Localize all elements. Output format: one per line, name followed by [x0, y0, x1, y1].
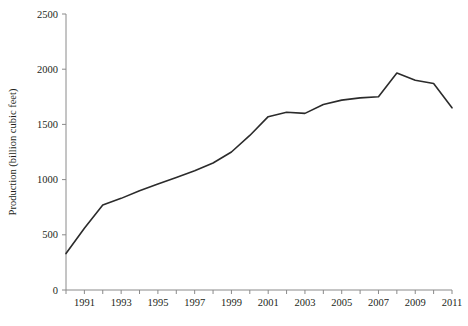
x-tick-label: 2003: [294, 297, 315, 308]
chart-canvas: 05001000150020002500 1991199319951997199…: [0, 0, 468, 326]
x-tick-label: 2005: [331, 297, 352, 308]
y-tick-label: 1000: [37, 174, 58, 185]
x-tick-label: 2007: [368, 297, 389, 308]
production-line: [66, 73, 452, 254]
y-axis-title: Production (billion cubic feet): [7, 88, 19, 215]
x-tick-label: 1991: [74, 297, 95, 308]
x-tick-label: 1995: [147, 297, 168, 308]
x-tick-label: 2009: [405, 297, 426, 308]
x-tick-label: 2001: [258, 297, 279, 308]
x-tick-label: 2011: [442, 297, 463, 308]
x-tick-label: 1999: [221, 297, 242, 308]
y-tick-label: 2500: [37, 9, 58, 20]
y-tick-label: 500: [42, 229, 58, 240]
x-tick-label: 1993: [111, 297, 132, 308]
y-tick-label: 1500: [37, 119, 58, 130]
x-tick-label: 1997: [184, 297, 205, 308]
y-axis: 05001000150020002500: [37, 9, 66, 296]
y-tick-label: 2000: [37, 64, 58, 75]
x-axis: 1991199319951997199920012003200520072009…: [66, 290, 462, 308]
y-axis-title-text: Production (billion cubic feet): [7, 88, 19, 215]
data-series-production: [66, 73, 452, 254]
y-tick-label: 0: [53, 285, 58, 296]
line-chart: 05001000150020002500 1991199319951997199…: [0, 0, 468, 326]
